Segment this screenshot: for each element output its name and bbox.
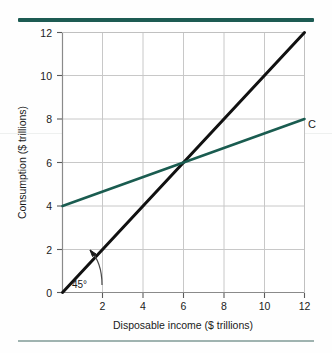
y-tick-label: 2 (46, 244, 52, 256)
y-tick-label: 4 (46, 200, 52, 212)
x-axis-tick-labels: 2 4 6 8 10 12 (100, 300, 311, 312)
line-chart-plot: 0 2 4 6 8 10 12 2 4 6 8 10 12 C 45° (0, 0, 332, 353)
x-tick-label: 4 (140, 300, 146, 312)
y-tick-label: 10 (40, 70, 52, 82)
x-tick-label: 8 (221, 300, 227, 312)
x-axis-title: Disposable income ($ trillions) (113, 319, 253, 331)
series-label-c: C (308, 118, 316, 130)
chart-figure: 0 2 4 6 8 10 12 2 4 6 8 10 12 C 45° (0, 0, 332, 353)
y-axis-ticks (57, 33, 62, 293)
x-tick-label: 10 (259, 300, 271, 312)
x-tick-label: 12 (299, 300, 311, 312)
y-tick-label: 6 (46, 157, 52, 169)
y-tick-label: 0 (46, 287, 52, 299)
annotation-label-45deg: 45° (72, 279, 87, 290)
y-tick-label: 8 (46, 113, 52, 125)
x-tick-label: 2 (100, 300, 106, 312)
x-tick-label: 6 (181, 300, 187, 312)
y-tick-label: 12 (40, 27, 52, 39)
y-axis-title: Consumption ($ trillions) (16, 106, 28, 219)
x-axis-ticks (103, 293, 305, 298)
y-axis-tick-labels: 0 2 4 6 8 10 12 (40, 27, 52, 299)
